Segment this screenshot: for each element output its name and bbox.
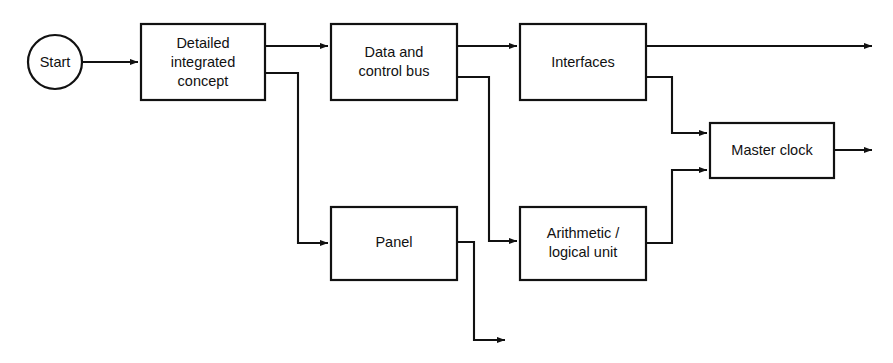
detailed-integrated-concept-label-line-1: Detailed: [176, 35, 229, 51]
panel-label: Panel: [375, 234, 412, 250]
detailed-integrated-concept-label-line-3: concept: [178, 73, 229, 89]
arithmetic-logical-unit-label-line-2: logical unit: [549, 244, 618, 260]
master-clock-label: Master clock: [731, 142, 813, 158]
flowchart-diagram: Start Detailed integrated concept Data a…: [0, 0, 893, 363]
flowchart-canvas: Start Detailed integrated concept Data a…: [0, 0, 893, 363]
node-panel[interactable]: Panel: [331, 207, 457, 280]
detailed-integrated-concept-label-line-2: integrated: [171, 54, 236, 70]
start-label: Start: [40, 54, 71, 70]
edge-alu-to-master-clock: [646, 170, 707, 243]
node-master-clock[interactable]: Master clock: [710, 123, 834, 178]
node-detailed-integrated-concept[interactable]: Detailed integrated concept: [141, 24, 265, 100]
node-interfaces[interactable]: Interfaces: [520, 24, 646, 100]
node-arithmetic-logical-unit[interactable]: Arithmetic / logical unit: [520, 207, 646, 280]
arithmetic-logical-unit-label-line-1: Arithmetic /: [547, 225, 620, 241]
data-and-control-bus-label-line-1: Data and: [365, 44, 424, 60]
nodes-layer: Start Detailed integrated concept Data a…: [28, 24, 834, 280]
node-start[interactable]: Start: [28, 35, 82, 89]
edge-bus-to-alu: [457, 77, 517, 241]
edge-concept-to-panel: [265, 73, 328, 243]
edge-interfaces-to-master-clock: [646, 77, 707, 133]
interfaces-label: Interfaces: [551, 54, 615, 70]
edge-panel-to-exit-bottom: [457, 242, 505, 340]
data-and-control-bus-label-line-2: control bus: [359, 63, 430, 79]
node-data-and-control-bus[interactable]: Data and control bus: [331, 24, 457, 100]
